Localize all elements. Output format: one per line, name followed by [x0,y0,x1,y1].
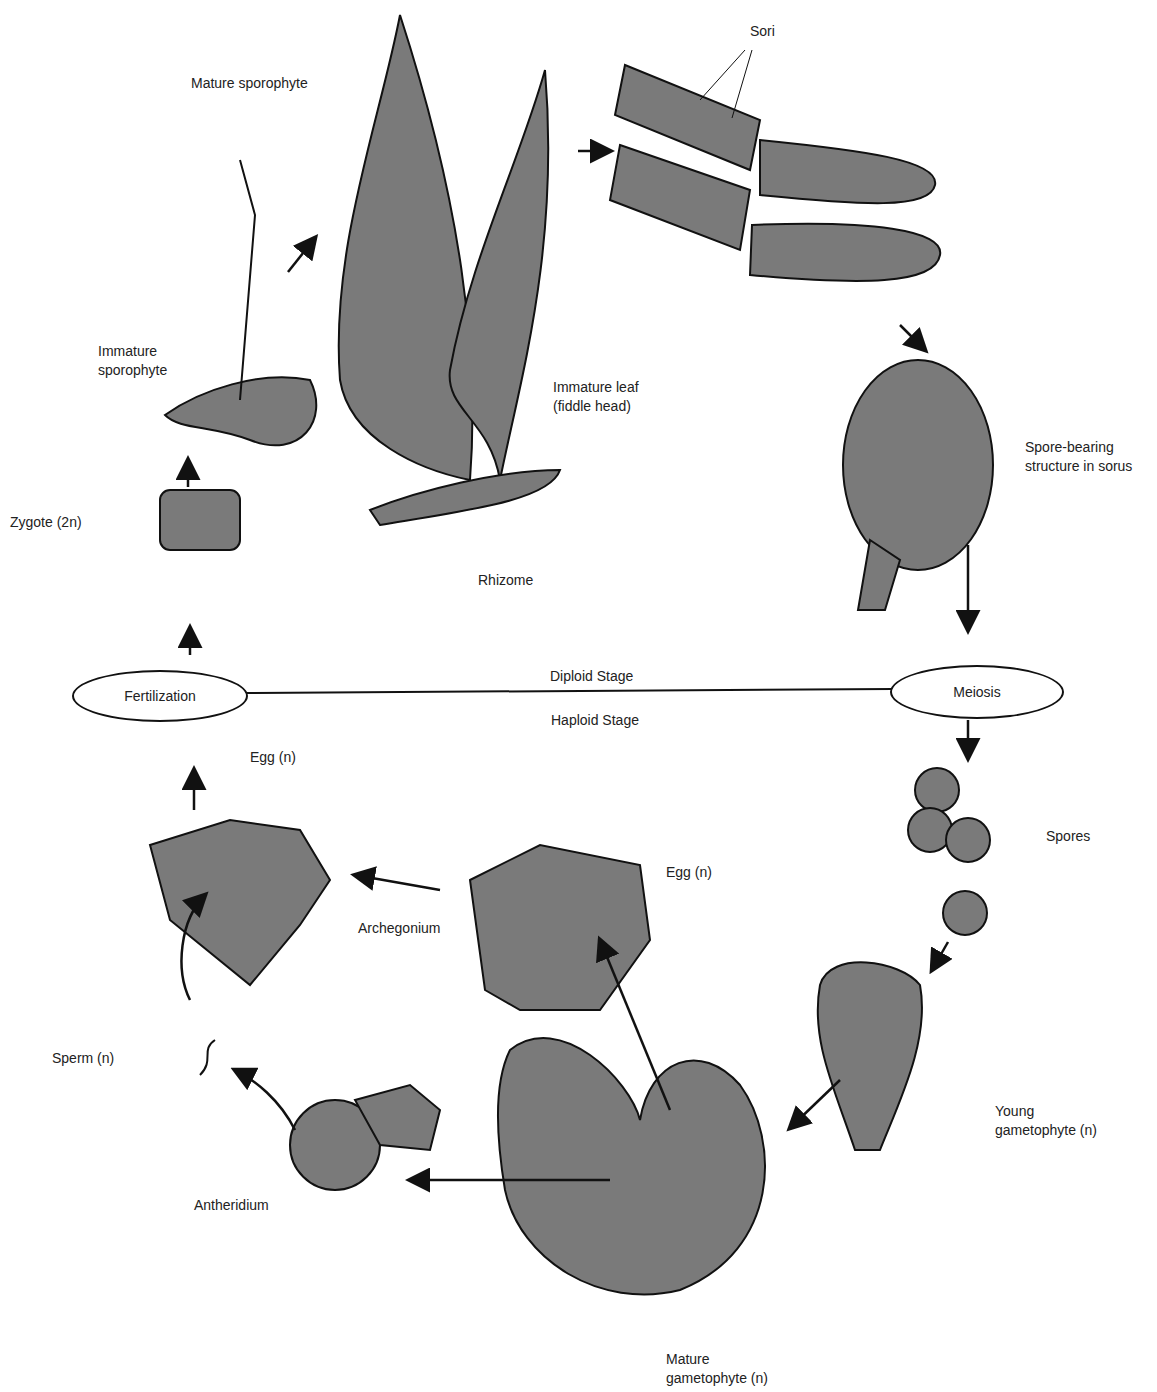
mature-gametophyte-icon [498,1038,765,1294]
pinna-icon [760,140,935,203]
meiosis-label: Meiosis [953,684,1000,700]
rhizome-label: Rhizome [478,571,533,590]
archegonium-mid-icon [470,845,650,1010]
immature-sporophyte-label-1: Immature [98,342,157,361]
archegonium-icon [150,820,330,985]
immature-leaf-label-1: Immature leaf [553,378,639,397]
mature-gametophyte-label-1: Mature [666,1350,710,1369]
sori-label: Sori [750,22,775,41]
arrow-icon [355,875,440,890]
arrow-icon [235,1070,295,1130]
mature-frond-icon [339,15,473,480]
zygote-icon [160,490,240,550]
arrow-icon [900,325,925,350]
mature-sporophyte-label: Mature sporophyte [191,74,308,93]
meiosis-node: Meiosis [890,665,1064,719]
pinna-icon [750,224,940,281]
sperm-icon [200,1040,215,1075]
spores-label: Spores [1046,827,1090,846]
sporangium-icon [843,360,993,570]
stage-divider-line [245,689,893,693]
archegonium-label: Archegonium [358,919,441,938]
spore-bearing-label-2: structure in sorus [1025,457,1132,476]
arrow-icon [288,238,315,272]
mature-gametophyte-label-2: gametophyte (n) [666,1369,768,1388]
zygote-label: Zygote (2n) [10,513,82,532]
young-gametophyte-label-1: Young [995,1102,1034,1121]
immature-sporophyte-label-2: sporophyte [98,361,167,380]
immature-leaf-label-2: (fiddle head) [553,397,631,416]
sperm-label: Sperm (n) [52,1049,114,1068]
haploid-stage-label: Haploid Stage [551,711,639,730]
spore-icon [915,768,959,812]
young-gametophyte-icon [818,962,922,1150]
young-gametophyte-label-2: gametophyte (n) [995,1121,1097,1140]
egg-top-label: Egg (n) [250,748,296,767]
diploid-stage-label: Diploid Stage [550,667,633,686]
arrow-icon [790,1080,840,1128]
arrow-icon [932,942,948,970]
egg-mid-label: Egg (n) [666,863,712,882]
fertilization-node: Fertilization [72,670,248,722]
fertilization-label: Fertilization [124,688,196,704]
spore-bearing-label-1: Spore-bearing [1025,438,1114,457]
antheridium-label: Antheridium [194,1196,269,1215]
